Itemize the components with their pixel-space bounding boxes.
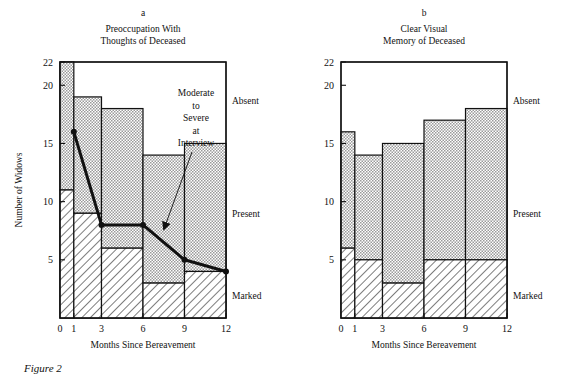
y-tick-label-10: 10 xyxy=(43,196,53,207)
annotation-line-3: Severe xyxy=(183,113,209,123)
category-label-marked: Marked xyxy=(513,291,543,301)
x-tick-label-9: 9 xyxy=(463,323,468,334)
x-tick-label-3: 3 xyxy=(99,323,104,334)
y-tick-label-10: 10 xyxy=(324,196,334,207)
bar-present-1-3 xyxy=(355,155,383,260)
panel-title-line2: Memory of Deceased xyxy=(383,36,465,46)
overlay-point-12 xyxy=(223,268,229,274)
bars-group xyxy=(60,62,226,318)
category-labels: AbsentPresentMarked xyxy=(232,96,262,301)
bar-marked-6-9 xyxy=(424,260,466,318)
x-tick-label-12: 12 xyxy=(502,323,512,334)
x-axis-label: Months Since Bereavement xyxy=(371,340,476,350)
panel-b: bClear VisualMemory of Deceased510152022… xyxy=(324,8,543,350)
figure-2-svg: aPreoccupation WithThoughts of Deceased5… xyxy=(0,0,567,385)
x-tick-label-0: 0 xyxy=(339,323,344,334)
x-tick-label-0: 0 xyxy=(58,323,63,334)
bar-present-6-9 xyxy=(143,155,185,283)
y-tick-label-5: 5 xyxy=(329,254,334,265)
x-tick-label-3: 3 xyxy=(380,323,385,334)
overlay-point-9 xyxy=(182,257,188,263)
category-labels: AbsentPresentMarked xyxy=(513,96,543,301)
panel-title-line1: Clear Visual xyxy=(400,24,447,34)
panel-letter-a: a xyxy=(141,8,146,18)
x-tick-label-6: 6 xyxy=(141,323,146,334)
bar-marked-6-9 xyxy=(143,283,185,318)
bar-marked-0-1 xyxy=(60,190,74,318)
figure-caption: Figure 2 xyxy=(23,362,62,374)
bar-present-9-12 xyxy=(466,109,508,260)
bar-present-0-1 xyxy=(60,62,74,190)
bars-group xyxy=(341,109,507,318)
category-label-absent: Absent xyxy=(232,96,259,106)
annotation-line-2: to xyxy=(192,101,200,111)
annotation-line-4: at xyxy=(193,126,200,136)
bar-marked-3-6 xyxy=(102,248,144,318)
y-tick-label-22: 22 xyxy=(43,57,53,68)
y-tick-label-15: 15 xyxy=(43,138,53,149)
category-label-present: Present xyxy=(232,209,260,219)
category-label-absent: Absent xyxy=(513,96,540,106)
panel-title-line2: Thoughts of Deceased xyxy=(101,36,186,46)
overlay-point-3 xyxy=(99,222,105,228)
bar-present-0-1 xyxy=(341,132,355,248)
x-axis-label: Months Since Bereavement xyxy=(90,340,195,350)
panel-title-line1: Preoccupation With xyxy=(105,24,180,34)
bar-present-6-9 xyxy=(424,120,466,260)
bar-present-1-3 xyxy=(74,97,102,213)
annotation-line-1: Moderate xyxy=(178,88,214,98)
bar-marked-9-12 xyxy=(185,271,227,318)
y-tick-label-20: 20 xyxy=(324,80,334,91)
bar-marked-1-3 xyxy=(355,260,383,318)
x-tick-label-1: 1 xyxy=(352,323,357,334)
y-tick-label-22: 22 xyxy=(324,57,334,68)
category-label-marked: Marked xyxy=(232,291,262,301)
figure-2-root: aPreoccupation WithThoughts of Deceased5… xyxy=(0,0,567,385)
x-tick-label-6: 6 xyxy=(422,323,427,334)
x-tick-label-9: 9 xyxy=(182,323,187,334)
panel-letter-b: b xyxy=(422,8,427,18)
panel-a: aPreoccupation WithThoughts of Deceased5… xyxy=(14,8,262,350)
y-axis-label: Number of Widows xyxy=(14,152,24,227)
bar-present-3-6 xyxy=(102,109,144,249)
category-label-present: Present xyxy=(513,209,541,219)
annotation-line-5: Interview xyxy=(178,138,215,148)
y-tick-label-5: 5 xyxy=(48,254,53,265)
bar-marked-0-1 xyxy=(341,248,355,318)
bar-marked-1-3 xyxy=(74,213,102,318)
x-tick-label-1: 1 xyxy=(71,323,76,334)
bar-marked-3-6 xyxy=(383,283,425,318)
x-tick-label-12: 12 xyxy=(221,323,231,334)
overlay-point-1 xyxy=(71,129,77,135)
bar-marked-9-12 xyxy=(466,260,508,318)
y-tick-label-20: 20 xyxy=(43,80,53,91)
bar-present-3-6 xyxy=(383,143,425,283)
overlay-point-6 xyxy=(140,222,146,228)
bar-present-9-12 xyxy=(185,143,227,271)
y-tick-label-15: 15 xyxy=(324,138,334,149)
